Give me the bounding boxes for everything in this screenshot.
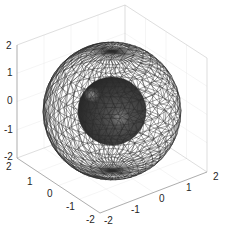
x-tick-label: 2 xyxy=(213,171,219,182)
z-tick-label: 1 xyxy=(7,67,13,78)
y-tick-label: 2 xyxy=(6,161,12,172)
z-tick-label: -1 xyxy=(4,124,13,135)
x-tick-label: -1 xyxy=(131,204,140,215)
y-tick-label: -2 xyxy=(86,214,95,225)
y-tick-labels: 2 1 0 -1 -2 xyxy=(6,161,95,225)
x-tick-label: -2 xyxy=(104,215,113,226)
y-tick-label: 0 xyxy=(47,188,53,199)
z-tick-labels: 2 1 0 -1 -2 xyxy=(4,40,13,162)
x-tick-label: 0 xyxy=(159,193,165,204)
z-tick-label: 2 xyxy=(6,40,12,51)
sphere-plot: 2 1 0 -1 -2 2 1 0 -1 -2 -2 -1 0 1 2 xyxy=(0,0,226,235)
x-tick-label: 1 xyxy=(186,182,192,193)
y-tick-label: 1 xyxy=(27,176,33,187)
z-tick-label: 0 xyxy=(7,95,13,106)
y-tick-label: -1 xyxy=(66,201,75,212)
